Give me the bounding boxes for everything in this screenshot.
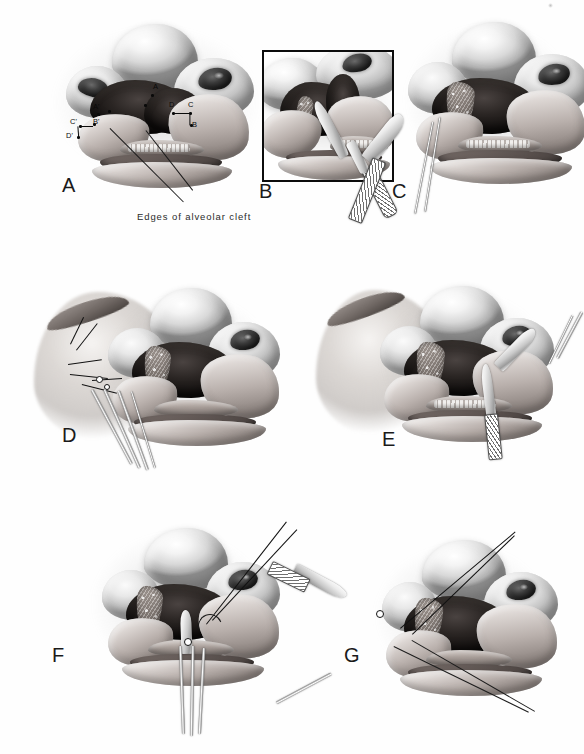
panel-f-artwork bbox=[88, 528, 298, 738]
figure-plate: A C D B A' B' C' D' A Edges of alveolar … bbox=[0, 0, 584, 754]
panel-f bbox=[88, 528, 298, 738]
landmark-label-b: B bbox=[192, 121, 197, 129]
landmark-label-d: D bbox=[169, 101, 174, 109]
panel-e bbox=[316, 286, 568, 462]
panel-e-artwork bbox=[316, 286, 568, 462]
cleft-edge-marker bbox=[108, 110, 111, 113]
panel-letter-b: B bbox=[259, 180, 272, 203]
landmark-point-a bbox=[151, 94, 154, 97]
panel-g-artwork bbox=[372, 540, 578, 746]
needle-holder-hinge bbox=[184, 638, 192, 646]
panel-letter-e: E bbox=[382, 428, 395, 451]
landmark-connector-dc bbox=[173, 113, 190, 114]
landmark-label-d-prime: D' bbox=[66, 132, 73, 140]
page-corner-mark bbox=[548, 3, 553, 8]
suture-knot bbox=[96, 376, 103, 383]
panel-letter-f: F bbox=[52, 644, 64, 667]
panel-c bbox=[400, 20, 582, 220]
landmark-label-c: C bbox=[188, 101, 193, 109]
panel-letter-a: A bbox=[62, 174, 75, 197]
cleft-edge-marker bbox=[144, 104, 147, 107]
landmark-label-a-prime: A' bbox=[93, 103, 99, 111]
panel-a: A C D B A' B' C' D' bbox=[48, 22, 268, 200]
panel-g bbox=[372, 540, 578, 746]
landmark-connector-cb bbox=[190, 114, 191, 125]
landmark-label-a: A bbox=[153, 83, 158, 91]
panel-letter-d: D bbox=[62, 424, 76, 447]
panel-a-artwork bbox=[48, 22, 268, 200]
landmark-point-a-prime bbox=[97, 113, 100, 116]
landmark-label-b-prime: B' bbox=[93, 118, 99, 126]
suture-knot bbox=[376, 610, 384, 618]
landmark-connector-cb-prime bbox=[80, 126, 93, 127]
landmark-label-c-prime: C' bbox=[70, 118, 77, 126]
panel-letter-g: G bbox=[344, 644, 360, 667]
caption-edges-of-alveolar-cleft: Edges of alveolar cleft bbox=[137, 211, 251, 222]
panel-letter-c: C bbox=[392, 180, 406, 203]
